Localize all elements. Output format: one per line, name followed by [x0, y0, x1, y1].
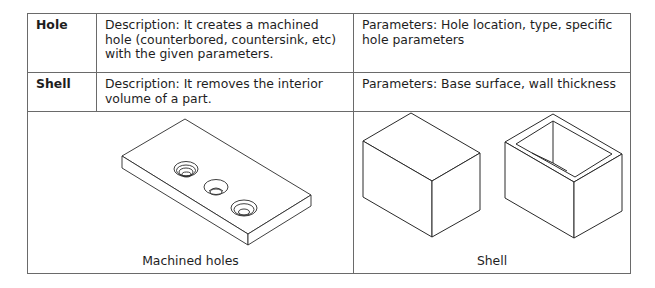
- shelled-box-icon: [505, 114, 622, 238]
- solid-box-icon: [363, 113, 480, 237]
- plate-with-holes-illustration: [28, 112, 354, 274]
- figures-row: Machined holes: [28, 112, 630, 273]
- figure-caption: Machined holes: [28, 253, 353, 268]
- feature-parameters-cell: Parameters: Hole location, type, specifi…: [354, 14, 630, 72]
- figure-caption: Shell: [354, 253, 630, 268]
- figure-shell: Shell: [354, 112, 630, 273]
- table-row-shell: Shell Description: It removes the interi…: [28, 73, 630, 112]
- feature-description-cell: Description: It removes the interior vol…: [97, 73, 354, 111]
- shell-boxes-illustration: [354, 112, 631, 274]
- figure-machined-holes: Machined holes: [28, 112, 354, 273]
- feature-name-cell: Hole: [28, 14, 97, 72]
- feature-table: Hole Description: It creates a machined …: [27, 13, 631, 274]
- feature-description-cell: Description: It creates a machined hole …: [97, 14, 354, 72]
- feature-name-cell: Shell: [28, 73, 97, 111]
- feature-parameters-cell: Parameters: Base surface, wall thickness: [354, 73, 630, 111]
- table-row-hole: Hole Description: It creates a machined …: [28, 14, 630, 73]
